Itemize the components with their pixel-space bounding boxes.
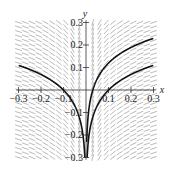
slope-segment: [104, 29, 109, 34]
slope-segment: [15, 84, 22, 86]
slope-segment: [49, 156, 55, 160]
slope-segment: [15, 125, 22, 127]
slope-segment: [56, 29, 61, 33]
slope-segment: [123, 25, 129, 28]
slope-segment: [130, 142, 136, 145]
slope-segment: [29, 107, 35, 110]
slope-segment: [56, 146, 61, 150]
slope-segment: [56, 20, 61, 24]
slope-segment: [104, 42, 109, 47]
slope-segment: [137, 116, 143, 119]
slope-segment: [110, 119, 115, 123]
slope-segment: [63, 60, 68, 65]
slope-segment: [36, 39, 42, 42]
slope-segment: [42, 57, 48, 60]
slope-segment: [15, 129, 22, 131]
slope-segment: [63, 29, 68, 34]
slope-segment: [15, 35, 22, 37]
slope-segment: [123, 61, 129, 64]
slope-segment: [123, 43, 129, 46]
slope-segment: [137, 21, 143, 24]
slope-segment: [56, 61, 61, 65]
slope-segment: [29, 62, 35, 65]
slope-segment: [143, 84, 150, 86]
slope-segment: [143, 80, 150, 82]
slope-segment: [130, 48, 136, 51]
slope-segment: [22, 53, 29, 55]
slope-segment: [130, 120, 136, 123]
slope-segment: [143, 53, 150, 55]
slope-segment: [123, 151, 129, 154]
slope-segment: [56, 52, 61, 56]
slope-segment: [36, 25, 42, 28]
slope-segment: [104, 33, 109, 38]
slope-segment: [22, 120, 29, 122]
slope-segment: [29, 138, 35, 141]
slope-segment: [56, 115, 61, 119]
slope-segment: [143, 35, 150, 37]
slope-segment: [56, 34, 61, 38]
slope-segment: [104, 128, 109, 133]
slope-segment: [110, 29, 115, 33]
slope-segment: [150, 138, 157, 140]
x-tick-label: −0.2: [32, 93, 50, 104]
slope-segment: [123, 133, 129, 136]
slope-segment: [104, 114, 109, 119]
slope-segment: [36, 142, 42, 145]
slope-segment: [15, 71, 22, 73]
x-tick-label: −0.1: [54, 93, 72, 104]
slope-segment: [123, 57, 129, 60]
slope-segment: [137, 62, 143, 65]
slope-segment: [49, 84, 55, 88]
slope-segment: [117, 34, 123, 38]
slope-segment: [56, 133, 61, 137]
slope-segment: [117, 57, 123, 61]
slope-segment: [15, 21, 22, 23]
slope-segment: [36, 133, 42, 136]
slope-segment: [137, 134, 143, 137]
slope-segment: [117, 43, 123, 47]
slope-segment: [15, 39, 22, 41]
slope-segment: [117, 120, 123, 124]
slope-segment: [22, 39, 29, 41]
slope-segment: [49, 57, 55, 61]
slope-segment: [117, 70, 123, 74]
slope-segment: [110, 128, 115, 132]
slope-segment: [150, 21, 157, 23]
slope-segment: [22, 30, 29, 32]
slope-segment: [29, 120, 35, 123]
slope-segment: [123, 30, 129, 33]
slope-segment: [22, 129, 29, 131]
x-tick-label: 0.3: [147, 93, 160, 104]
slope-segment: [42, 120, 48, 123]
slope-segment: [137, 143, 143, 146]
slope-segment: [110, 106, 115, 110]
slope-segment: [117, 142, 123, 146]
slope-segment: [36, 30, 42, 33]
slope-segment: [143, 134, 150, 136]
slope-segment: [56, 128, 61, 132]
slope-segment: [63, 74, 68, 79]
slope-segment: [110, 47, 115, 51]
slope-segment: [49, 124, 55, 128]
slope-segment: [110, 155, 115, 159]
slope-segment: [49, 151, 55, 155]
slope-segment: [143, 143, 150, 145]
slope-segment: [110, 34, 115, 38]
slope-segment: [123, 124, 129, 127]
slope-segment: [42, 61, 48, 64]
slope-segment: [123, 120, 129, 123]
slope-segment: [49, 21, 55, 25]
slope-segment: [110, 38, 115, 42]
slope-segment: [63, 83, 68, 88]
slope-segment: [63, 78, 68, 83]
slope-segment: [123, 70, 129, 73]
slope-segment: [36, 156, 42, 159]
slope-segment: [56, 142, 61, 146]
slope-segment: [130, 151, 136, 154]
x-axis-label: x: [159, 84, 165, 95]
slope-segment: [29, 80, 35, 83]
slope-segment: [117, 30, 123, 34]
slope-segment: [22, 57, 29, 59]
y-tick-label: −0.1: [65, 107, 83, 118]
